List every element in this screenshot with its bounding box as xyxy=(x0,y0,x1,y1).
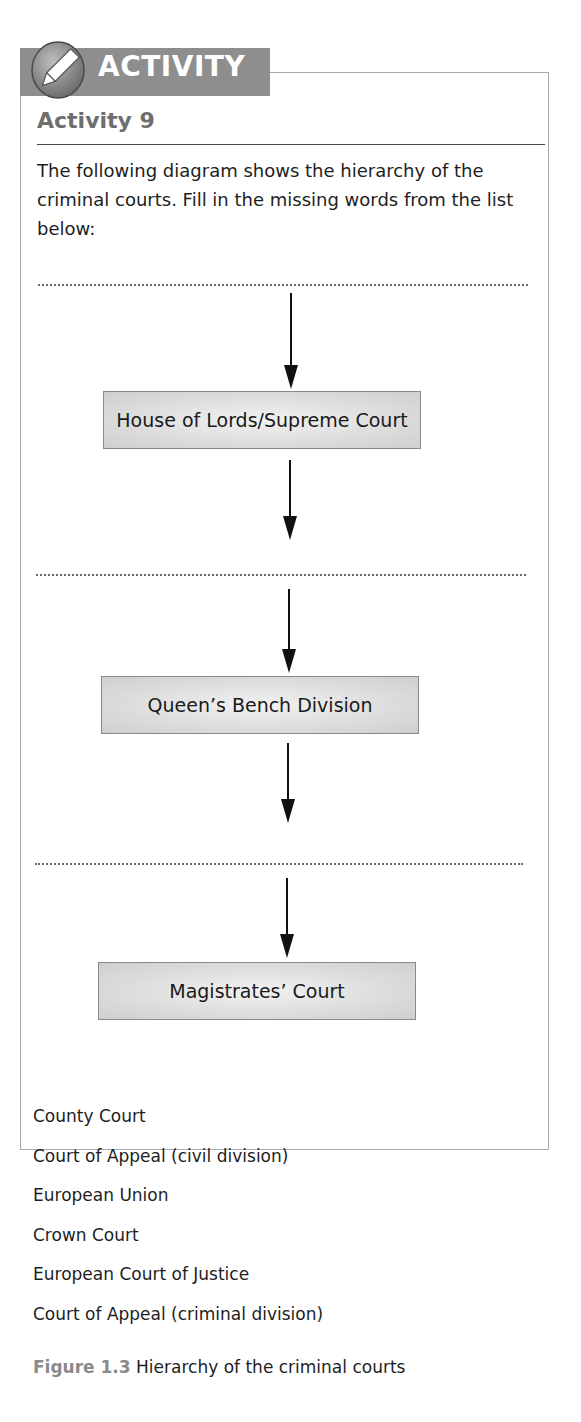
figure-caption-text: Hierarchy of the criminal courts xyxy=(136,1357,405,1377)
title-divider xyxy=(37,144,545,145)
arrow-down-icon xyxy=(280,743,296,823)
answer-blank-1[interactable] xyxy=(38,284,528,286)
activity-title: Activity 9 xyxy=(37,108,155,133)
word-list-item: European Union xyxy=(33,1175,323,1215)
word-list-item: European Court of Justice xyxy=(33,1254,323,1294)
answer-blank-3[interactable] xyxy=(35,863,523,865)
court-box-house-of-lords: House of Lords/Supreme Court xyxy=(103,391,421,449)
word-list: County Court Court of Appeal (civil divi… xyxy=(33,1096,323,1334)
activity-instructions: The following diagram shows the hierarch… xyxy=(37,156,537,243)
arrow-down-icon xyxy=(281,589,297,673)
court-label: Queen’s Bench Division xyxy=(148,694,373,716)
word-list-item: County Court xyxy=(33,1096,323,1136)
answer-blank-2[interactable] xyxy=(36,574,526,576)
figure-caption: Figure 1.3 Hierarchy of the criminal cou… xyxy=(33,1357,405,1377)
arrow-down-icon xyxy=(279,878,295,958)
figure-label: Figure 1.3 xyxy=(33,1357,131,1377)
word-list-item: Crown Court xyxy=(33,1215,323,1255)
word-list-item: Court of Appeal (civil division) xyxy=(33,1136,323,1176)
court-box-queens-bench: Queen’s Bench Division xyxy=(101,676,419,734)
banner-label: ACTIVITY xyxy=(98,50,245,83)
pencil-icon xyxy=(30,40,86,100)
arrow-down-icon xyxy=(282,460,298,540)
arrow-down-icon xyxy=(283,293,299,389)
court-box-magistrates: Magistrates’ Court xyxy=(98,962,416,1020)
court-label: House of Lords/Supreme Court xyxy=(116,409,407,431)
word-list-item: Court of Appeal (criminal division) xyxy=(33,1294,323,1334)
court-label: Magistrates’ Court xyxy=(169,980,345,1002)
